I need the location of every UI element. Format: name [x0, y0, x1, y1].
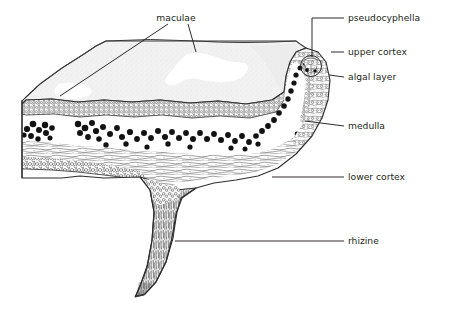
label-upper-cortex: upper cortex	[348, 46, 407, 57]
lichen-thallus-diagram: maculae pseudocyphella upper cortex alga…	[0, 0, 454, 320]
leader-algal-layer	[329, 75, 344, 77]
label-algal-layer: algal layer	[348, 71, 396, 82]
label-lower-cortex: lower cortex	[348, 171, 406, 182]
diagram-page: maculae pseudocyphella upper cortex alga…	[0, 0, 454, 320]
label-pseudocyphella: pseudocyphella	[348, 12, 420, 23]
label-maculae: maculae	[156, 12, 196, 23]
label-medulla: medulla	[348, 120, 385, 131]
label-rhizine: rhizine	[348, 235, 379, 246]
